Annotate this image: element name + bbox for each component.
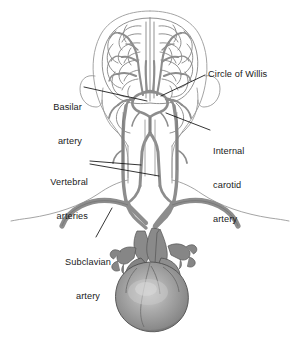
internal-carotid-artery-right	[174, 106, 177, 201]
label-internal-carotid-line2: carotid	[213, 180, 244, 191]
label-circle-of-willis: Circle of Willis	[208, 69, 267, 80]
illustration-canvas: Circle of Willis Basilar artery Internal…	[0, 0, 297, 339]
label-subclavian-artery-line1: Subclavian	[48, 257, 128, 268]
label-internal-carotid-line1: Internal	[213, 146, 244, 157]
leader-vertebral-1	[90, 161, 141, 165]
label-vertebral-arteries-line1: Vertebral	[0, 177, 88, 188]
leader-lines	[84, 75, 210, 237]
label-basilar-artery-line1: Basilar	[0, 102, 82, 113]
ear-right-outline	[198, 76, 220, 107]
label-vertebral-arteries-line2: arteries	[0, 211, 88, 222]
vertebral-descending-right	[160, 186, 174, 204]
vessel-outlines	[62, 112, 238, 226]
label-vertebral-arteries: Vertebral arteries	[0, 155, 88, 245]
vertebral-descending-left	[126, 186, 140, 204]
label-internal-carotid-artery: Internal carotid artery	[213, 124, 244, 247]
label-subclavian-artery-line2: artery	[48, 291, 128, 302]
label-subclavian-artery: Subclavian artery	[48, 235, 128, 325]
ear-left-outline	[80, 76, 102, 107]
internal-carotid-artery-left	[123, 106, 126, 201]
label-basilar-artery-line2: artery	[0, 136, 82, 147]
label-internal-carotid-line3: artery	[213, 214, 244, 225]
heart-highlight-core	[135, 282, 157, 296]
leader-subclavian	[96, 208, 112, 237]
